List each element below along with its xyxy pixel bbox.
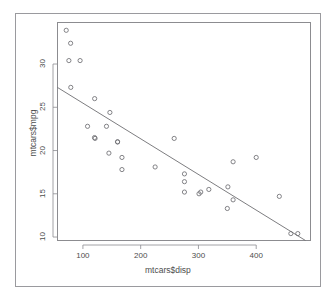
data-point (67, 58, 71, 62)
data-point (182, 172, 186, 176)
regression-line-layer (58, 87, 306, 240)
y-tick-label: 15 (37, 185, 46, 201)
x-axis-title: mtcars$disp (145, 265, 191, 275)
data-point (104, 124, 108, 128)
data-point (69, 41, 73, 45)
data-point (69, 85, 73, 89)
data-point (115, 140, 119, 144)
data-point (207, 187, 211, 191)
data-point (108, 110, 112, 114)
data-point (231, 198, 235, 202)
data-points-layer (64, 28, 300, 235)
data-point (231, 160, 235, 164)
data-point (182, 180, 186, 184)
y-axis-title: mtcars$mpg (28, 103, 38, 163)
x-tick-label: 200 (132, 251, 150, 260)
regression-line (58, 87, 306, 240)
data-point (277, 194, 281, 198)
data-point (120, 155, 124, 159)
data-point (93, 97, 97, 101)
data-point (107, 151, 111, 155)
data-point (120, 167, 124, 171)
x-tick-label: 300 (189, 251, 207, 260)
data-point (254, 155, 258, 159)
data-point (172, 136, 176, 140)
data-point (64, 28, 68, 32)
y-tick-label: 25 (37, 99, 46, 115)
data-point (153, 165, 157, 169)
r-graphics-device: 1002003004001015202530 mtcars$disp mtcar… (0, 0, 336, 302)
data-point (225, 206, 229, 210)
plot-canvas (0, 0, 336, 302)
data-point (85, 124, 89, 128)
axis-ticks (53, 64, 256, 249)
data-point (78, 58, 82, 62)
x-tick-label: 400 (247, 251, 265, 260)
y-tick-label: 10 (37, 229, 46, 245)
y-tick-label: 30 (37, 56, 46, 72)
data-point (226, 185, 230, 189)
y-tick-label: 20 (37, 142, 46, 158)
x-tick-label: 100 (74, 251, 92, 260)
data-point (182, 190, 186, 194)
